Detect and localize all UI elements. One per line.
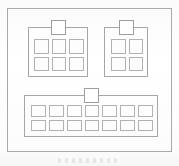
connector-tab-icon — [119, 20, 134, 35]
grid-cell — [49, 120, 64, 132]
figure-root — [0, 0, 179, 166]
grid-cell — [111, 57, 126, 72]
grid-cell — [31, 120, 46, 132]
grid-cell — [138, 120, 153, 132]
connector-tab-icon — [84, 88, 99, 103]
module-top-left — [28, 27, 88, 77]
grid-cell — [111, 39, 126, 54]
grid-cell — [52, 39, 67, 54]
module-bottom-grid — [31, 105, 153, 131]
module-top-right — [104, 27, 148, 77]
grid-cell — [102, 120, 117, 132]
grid-cell — [34, 57, 49, 72]
grid-cell — [69, 57, 84, 72]
grid-cell — [85, 120, 100, 132]
grid-cell — [67, 120, 82, 132]
grid-cell — [49, 105, 64, 117]
faint-scan-mark — [58, 158, 120, 163]
grid-cell — [129, 39, 144, 54]
grid-cell — [120, 120, 135, 132]
grid-cell — [34, 39, 49, 54]
module-top-left-grid — [34, 39, 84, 71]
grid-cell — [31, 105, 46, 117]
grid-cell — [138, 105, 153, 117]
grid-cell — [85, 105, 100, 117]
grid-cell — [102, 105, 117, 117]
grid-cell — [120, 105, 135, 117]
grid-cell — [52, 57, 67, 72]
connector-tab-icon — [51, 20, 66, 35]
grid-cell — [67, 105, 82, 117]
module-bottom — [24, 95, 158, 137]
grid-cell — [129, 57, 144, 72]
module-top-right-grid — [111, 39, 143, 71]
grid-cell — [69, 39, 84, 54]
